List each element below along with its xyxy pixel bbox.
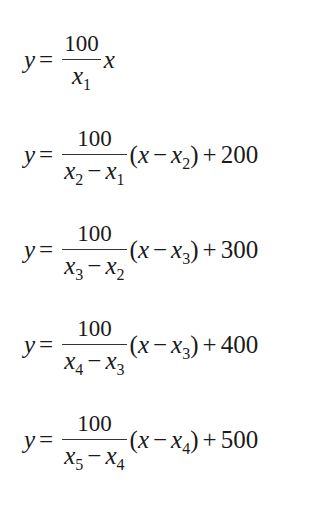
constant: 400 (221, 331, 259, 358)
equation-1: y = 100 x1 x (24, 25, 115, 95)
factor: (x−x2)+200 (130, 141, 259, 169)
lhs-variable: y (24, 331, 35, 359)
numerator: 100 (75, 412, 114, 439)
numerator: 100 (75, 222, 114, 249)
factor: (x−x3)+400 (130, 331, 259, 359)
factor-variable: x (104, 46, 115, 74)
equals-sign: = (39, 46, 53, 74)
fraction: 100 x4−x3 (62, 317, 126, 374)
constant: 500 (221, 426, 259, 453)
equation-3: y = 100 x3−x2 (x−x3)+300 (24, 215, 258, 285)
equals-sign: = (39, 236, 53, 264)
fraction: 100 x2−x1 (62, 127, 126, 184)
numerator: 100 (75, 317, 114, 344)
equation-4: y = 100 x4−x3 (x−x3)+400 (24, 310, 258, 380)
denominator: x2−x1 (62, 155, 126, 184)
denominator: x4−x3 (62, 345, 126, 374)
lhs-variable: y (24, 46, 35, 74)
lhs-variable: y (24, 141, 35, 169)
constant: 300 (221, 236, 259, 263)
numerator: 100 (62, 32, 101, 59)
numerator: 100 (75, 127, 114, 154)
denominator: x1 (70, 60, 93, 89)
equation-2: y = 100 x2−x1 (x−x2)+200 (24, 120, 258, 190)
fraction: 100 x3−x2 (62, 222, 126, 279)
equals-sign: = (39, 141, 53, 169)
constant: 200 (221, 141, 259, 168)
fraction: 100 x5−x4 (62, 412, 126, 469)
factor: (x−x3)+300 (130, 236, 259, 264)
equation-5: y = 100 x5−x4 (x−x4)+500 (24, 405, 258, 475)
lhs-variable: y (24, 426, 35, 454)
equals-sign: = (39, 331, 53, 359)
factor: (x−x4)+500 (130, 426, 259, 454)
equals-sign: = (39, 426, 53, 454)
denominator: x5−x4 (62, 440, 126, 469)
fraction: 100 x1 (62, 32, 101, 89)
lhs-variable: y (24, 236, 35, 264)
denominator: x3−x2 (62, 250, 126, 279)
